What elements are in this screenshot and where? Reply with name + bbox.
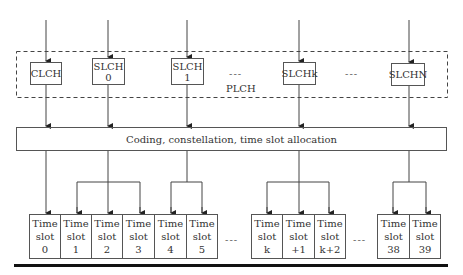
slot-text: Time bbox=[317, 217, 342, 230]
slot-text: slot bbox=[416, 230, 434, 243]
time-slot-38: Time slot 38 bbox=[377, 214, 410, 259]
channel-label: SLCHN bbox=[389, 69, 428, 80]
time-slot-3: Time slot 3 bbox=[122, 214, 155, 259]
time-slot-k: Time slot k bbox=[251, 214, 283, 259]
time-slot-5: Time slot 5 bbox=[186, 214, 218, 259]
slot-index: k bbox=[264, 243, 270, 256]
slot-index: 5 bbox=[199, 243, 205, 256]
channel-slch-1: SLCH 1 bbox=[171, 58, 204, 85]
channel-index: 1 bbox=[184, 72, 190, 83]
time-slot-4: Time slot 4 bbox=[154, 214, 187, 259]
slot-text: Time bbox=[381, 217, 406, 230]
channel-slch-n: SLCHN bbox=[391, 63, 425, 86]
slot-text: slot bbox=[321, 230, 339, 243]
slot-text: slot bbox=[258, 230, 276, 243]
slot-text: slot bbox=[289, 230, 307, 243]
slot-text: slot bbox=[98, 230, 116, 243]
slot-text: slot bbox=[67, 230, 85, 243]
channel-label: SLCH bbox=[94, 61, 124, 72]
channel-label: SLCHk bbox=[282, 68, 318, 79]
time-slot-39: Time slot 39 bbox=[409, 214, 441, 259]
plch-group-label: PLCH bbox=[226, 83, 256, 94]
slot-text: slot bbox=[36, 230, 54, 243]
slot-text: Time bbox=[126, 217, 151, 230]
channel-clch: CLCH bbox=[30, 62, 62, 85]
time-slot-2: Time slot 2 bbox=[91, 214, 123, 259]
slot-index: k+2 bbox=[320, 243, 341, 256]
time-slot-k-plus-1: Time slot +1 bbox=[282, 214, 315, 259]
channel-label: SLCH bbox=[173, 61, 203, 72]
slot-text: Time bbox=[189, 217, 214, 230]
slot-text: Time bbox=[32, 217, 57, 230]
channel-ellipsis-2: --- bbox=[345, 68, 358, 79]
slot-text: slot bbox=[129, 230, 147, 243]
slot-index: 2 bbox=[104, 243, 110, 256]
slot-text: slot bbox=[384, 230, 402, 243]
slot-index: 39 bbox=[419, 243, 432, 256]
time-slot-1: Time slot 1 bbox=[60, 214, 92, 259]
slot-index: 4 bbox=[167, 243, 173, 256]
slot-text: Time bbox=[158, 217, 183, 230]
slot-index: 38 bbox=[387, 243, 400, 256]
channel-slch-0: SLCH 0 bbox=[92, 58, 125, 85]
time-slot-0: Time slot 0 bbox=[29, 214, 61, 259]
slot-index: +1 bbox=[291, 243, 306, 256]
slot-ellipsis-2: --- bbox=[353, 234, 366, 245]
channel-index: 0 bbox=[105, 72, 111, 83]
slot-ellipsis-1: --- bbox=[225, 234, 238, 245]
slot-text: slot bbox=[161, 230, 179, 243]
slot-text: Time bbox=[254, 217, 279, 230]
slot-text: Time bbox=[63, 217, 88, 230]
coding-block-label: Coding, constellation, time slot allocat… bbox=[126, 134, 337, 145]
slot-text: slot bbox=[193, 230, 211, 243]
slot-text: Time bbox=[94, 217, 119, 230]
coding-constellation-block: Coding, constellation, time slot allocat… bbox=[16, 127, 447, 151]
channel-label: CLCH bbox=[31, 68, 62, 79]
slot-index: 3 bbox=[135, 243, 141, 256]
slot-index: 0 bbox=[42, 243, 48, 256]
channel-slch-k: SLCHk bbox=[283, 62, 316, 85]
slot-text: Time bbox=[286, 217, 311, 230]
bottom-rule bbox=[14, 264, 448, 267]
slot-text: Time bbox=[412, 217, 437, 230]
slot-index: 1 bbox=[73, 243, 79, 256]
time-slot-k-plus-2: Time slot k+2 bbox=[314, 214, 346, 259]
channel-ellipsis-1: --- bbox=[229, 68, 242, 79]
